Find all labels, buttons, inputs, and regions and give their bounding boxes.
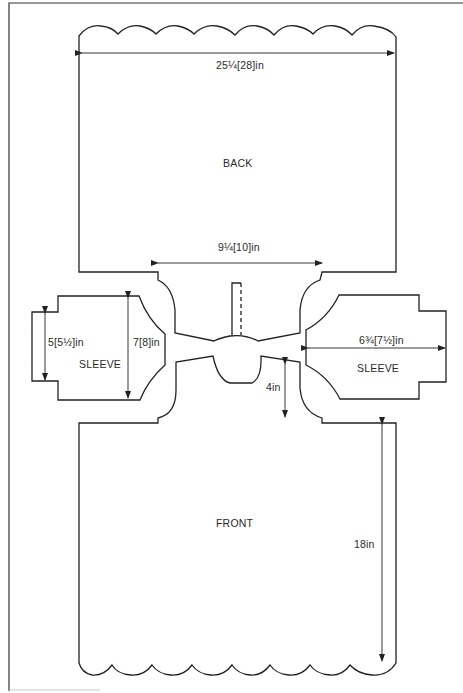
neck-width-label: 9¼[10]in — [218, 241, 260, 253]
front-label: FRONT — [216, 517, 253, 529]
sleeve-top-label: 7[8]in — [133, 336, 160, 348]
neck-depth-label: 4in — [266, 381, 281, 393]
sleeve-left-piece — [32, 296, 165, 400]
sleeve-length-label: 6¾[7½]in — [359, 334, 404, 346]
back-label: BACK — [223, 157, 252, 169]
sleeve-right-label: SLEEVE — [357, 362, 399, 374]
sleeve-right-piece — [306, 295, 446, 399]
sleeve-cuff-label: 5[5½]in — [48, 336, 84, 348]
back-piece — [79, 26, 396, 341]
back-width-label: 25¼[28]in — [216, 59, 264, 71]
neck-tab — [232, 283, 241, 335]
sleeve-left-label: SLEEVE — [79, 358, 121, 370]
front-piece — [79, 356, 396, 675]
front-length-label: 18in — [354, 538, 375, 550]
